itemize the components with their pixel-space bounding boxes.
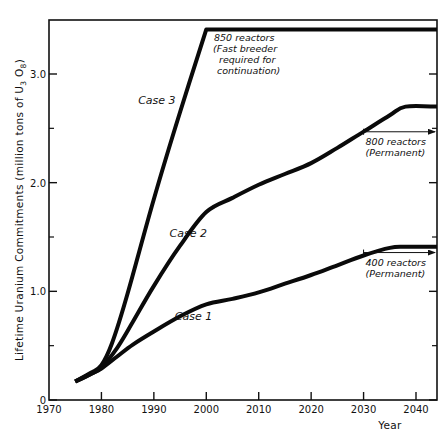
y-axis-title-main: Lifetime Uranium Commitments (million to… (13, 86, 25, 361)
annotation-850-reactors: required for (219, 54, 276, 65)
label-case-3: Case 3 (138, 94, 175, 107)
annotation-case1_note: (Permanent) (366, 268, 426, 279)
y-axis-title-mid: O (13, 68, 25, 80)
annotation-850-reactors: (Fast breeder (213, 43, 278, 54)
x-tick-label: 1980 (89, 404, 114, 415)
label-case-1: Case 1 (175, 310, 212, 323)
annotation-case1_note: 400 reactors (366, 257, 426, 268)
x-tick-label: 2030 (351, 404, 376, 415)
x-tick-label: 2040 (403, 404, 428, 415)
annotation-case2_note: 800 reactors (366, 136, 426, 147)
y-axis-title-end: ) (13, 59, 25, 63)
label-case-2: Case 2 (170, 227, 207, 240)
annotation-case2_note: (Permanent) (366, 147, 426, 158)
x-tick-label: 1970 (36, 404, 61, 415)
x-tick-label: 1990 (141, 404, 166, 415)
x-tick-label: 2000 (194, 404, 219, 415)
x-tick-label: 2010 (246, 404, 271, 415)
y-tick-label: 3.0 (30, 69, 46, 80)
y-tick-label: 2.0 (30, 178, 46, 189)
annotation-850-reactors: 850 reactors (214, 32, 274, 43)
y-tick-label: 1.0 (30, 286, 46, 297)
uranium-commitments-chart: 01.02.03.0 19701980199020002010202020302… (0, 0, 447, 440)
x-tick-label: 2020 (298, 404, 323, 415)
annotation-850-reactors: continuation) (217, 65, 280, 76)
x-axis-title: Year (377, 419, 402, 431)
